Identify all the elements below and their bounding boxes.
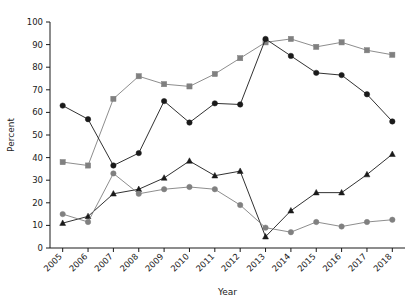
y-tick-label: 30: [32, 175, 43, 185]
data-point-series-gray-square: [212, 71, 217, 76]
data-point-series-gray-square: [238, 56, 243, 61]
data-point-series-black-circle: [136, 150, 141, 155]
data-point-series-gray-circle: [263, 225, 268, 230]
x-tick-label: 2018: [371, 251, 393, 273]
data-point-series-black-circle: [237, 102, 242, 107]
data-point-series-black-triangle: [339, 189, 345, 195]
y-tick-label: 0: [38, 243, 43, 253]
y-tick-label: 90: [32, 40, 43, 50]
x-tick-label: 2016: [321, 251, 343, 273]
y-tick-label: 80: [32, 62, 43, 72]
data-point-series-black-circle: [364, 92, 369, 97]
data-point-series-gray-square: [162, 82, 167, 87]
data-point-series-gray-square: [314, 44, 319, 49]
y-tick-label: 100: [27, 17, 43, 27]
data-point-series-black-circle: [60, 103, 65, 108]
x-tick-label: 2009: [143, 251, 165, 273]
data-point-series-black-circle: [187, 120, 192, 125]
data-point-series-black-circle: [111, 163, 116, 168]
data-point-series-black-circle: [161, 98, 166, 103]
data-point-series-gray-square: [187, 84, 192, 89]
x-tick-label: 2011: [194, 251, 216, 273]
data-point-series-gray-circle: [339, 224, 344, 229]
data-point-series-gray-circle: [237, 202, 242, 207]
y-tick-label: 50: [32, 130, 43, 140]
y-tick-label: 70: [32, 85, 43, 95]
data-point-series-black-triangle: [288, 208, 294, 214]
data-point-series-black-circle: [263, 36, 268, 41]
data-point-series-gray-circle: [187, 184, 192, 189]
data-point-series-gray-square: [364, 48, 369, 53]
x-tick-label: 2005: [42, 251, 64, 273]
y-tick-label: 40: [32, 153, 43, 163]
y-tick-label: 60: [32, 107, 43, 117]
y-tick-label: 10: [32, 220, 43, 230]
data-point-series-gray-circle: [111, 171, 116, 176]
data-point-series-black-triangle: [187, 158, 193, 164]
data-point-series-black-circle: [339, 72, 344, 77]
data-point-series-black-triangle: [313, 189, 319, 195]
data-point-series-black-triangle: [161, 175, 167, 181]
data-point-series-gray-circle: [364, 219, 369, 224]
data-point-series-gray-circle: [161, 187, 166, 192]
x-tick-label: 2013: [245, 251, 267, 273]
data-point-series-black-triangle: [237, 168, 243, 174]
data-point-series-black-circle: [390, 119, 395, 124]
data-point-series-black-triangle: [389, 151, 395, 157]
data-point-series-black-triangle: [364, 171, 370, 177]
y-tick-label: 20: [32, 198, 43, 208]
x-tick-label: 2015: [295, 251, 317, 273]
data-point-series-gray-square: [60, 160, 65, 165]
data-point-series-gray-circle: [85, 219, 90, 224]
x-tick-label: 2007: [92, 251, 114, 273]
series-line-series-gray-square: [63, 39, 393, 166]
x-tick-label: 2014: [270, 251, 292, 273]
data-point-series-gray-square: [288, 36, 293, 41]
data-point-series-gray-circle: [390, 217, 395, 222]
y-axis-title: Percent: [6, 118, 16, 152]
x-tick-label: 2012: [219, 251, 241, 273]
data-point-series-gray-circle: [60, 211, 65, 216]
series-line-series-gray-circle: [63, 173, 393, 232]
data-point-series-gray-circle: [314, 219, 319, 224]
x-tick-label: 2010: [169, 251, 191, 273]
line-chart: 0102030405060708090100200520062007200820…: [0, 0, 416, 301]
data-point-series-gray-circle: [136, 191, 141, 196]
x-axis-title: Year: [217, 287, 237, 297]
data-point-series-gray-square: [390, 52, 395, 57]
data-point-series-gray-square: [339, 40, 344, 45]
chart-container: 0102030405060708090100200520062007200820…: [0, 0, 416, 301]
data-point-series-black-circle: [288, 53, 293, 58]
data-point-series-gray-circle: [288, 229, 293, 234]
data-point-series-gray-circle: [212, 187, 217, 192]
data-point-series-gray-square: [111, 96, 116, 101]
data-point-series-black-circle: [212, 101, 217, 106]
data-point-series-black-circle: [85, 116, 90, 121]
data-point-series-gray-square: [136, 74, 141, 79]
data-point-series-gray-square: [85, 163, 90, 168]
x-tick-label: 2008: [118, 251, 140, 273]
data-point-series-black-circle: [314, 70, 319, 75]
x-tick-label: 2017: [346, 251, 368, 273]
x-tick-label: 2006: [67, 251, 89, 273]
